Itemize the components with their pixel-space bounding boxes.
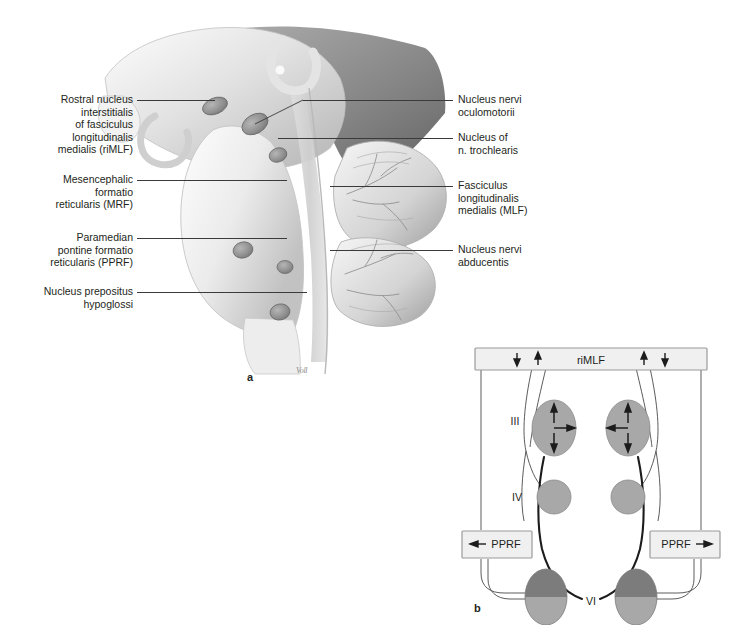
- label-trochlearis: Nucleus of n. trochlearis: [458, 131, 638, 156]
- nucleus-vi-label: VI: [586, 595, 596, 607]
- gaze-pathway-schematic: riMLF PPRF PPRF III IV VI: [460, 335, 722, 625]
- pprf-left-label: PPRF: [491, 538, 521, 550]
- leader-oculomotorii: [303, 100, 453, 101]
- leader-mrf: [137, 180, 287, 181]
- rimlf-bar-label: riMLF: [577, 354, 605, 366]
- nucleus-iv-left[interactable]: [537, 480, 571, 514]
- nucleus-iii-label: III: [511, 415, 520, 427]
- artist-signature: Voll: [296, 366, 307, 375]
- brainstem-illustration: [95, 18, 455, 378]
- label-rimlf: Rostral nucleus interstitialis of fascic…: [0, 93, 133, 156]
- label-oculomotorii: Nucleus nervi oculomotorii: [458, 93, 638, 118]
- leader-mlf: [330, 186, 453, 187]
- label-pprf: Paramedian pontine formatio reticularis …: [0, 231, 133, 269]
- panel-letter-a: a: [247, 371, 253, 383]
- nucleus-vi-left[interactable]: [524, 567, 568, 625]
- label-mlf: Fasciculus longitudinalis medialis (MLF): [458, 179, 638, 217]
- label-mrf: Mesencephalic formatio reticularis (MRF): [0, 173, 133, 211]
- leader-prepositus: [137, 292, 307, 293]
- figure-root: Rostral nucleus interstitialis of fascic…: [0, 0, 729, 642]
- nucleus-iv-label: IV: [512, 491, 522, 503]
- illustration-cerebellum-upper: [334, 141, 447, 248]
- leader-trochlearis: [278, 138, 453, 139]
- nucleus-abducentis-marker: [277, 261, 293, 274]
- leader-rimlf: [137, 100, 215, 101]
- schematic-pathways-light: [481, 368, 701, 599]
- illustration-cerebellum-lower: [331, 238, 435, 327]
- illustration-hook-lumen: [276, 66, 285, 75]
- pprf-right-label: PPRF: [661, 538, 691, 550]
- nucleus-vi-right[interactable]: [614, 567, 658, 625]
- leader-abducentis: [330, 250, 453, 251]
- leader-pprf: [137, 238, 287, 239]
- label-abducentis: Nucleus nervi abducentis: [458, 243, 638, 268]
- label-prepositus: Nucleus prepositus hypoglossi: [0, 285, 133, 310]
- panel-letter-b: b: [474, 602, 481, 614]
- nucleus-iv-right[interactable]: [611, 480, 645, 514]
- illustration-medulla: [243, 318, 300, 374]
